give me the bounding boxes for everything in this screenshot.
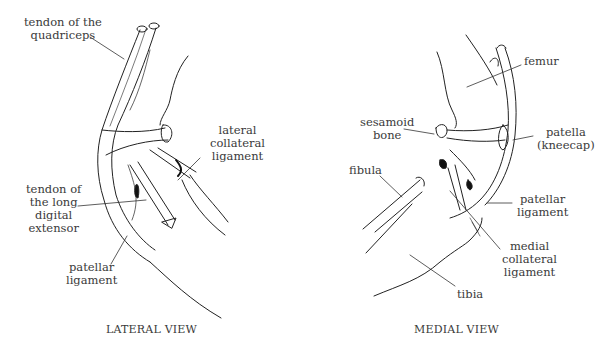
medial-view-drawing <box>363 35 516 296</box>
label-fibula: fibula <box>349 164 382 177</box>
label-lateral-collateral-ligament: lateral collateral ligament <box>210 124 265 163</box>
label-sesamoid-bone: sesamoid bone <box>360 116 414 142</box>
label-patellar-ligament-medial: patellar ligament <box>517 193 568 219</box>
knee-anatomy-drawing <box>0 0 609 356</box>
label-patellar-ligament-lateral: patellar ligament <box>66 261 117 287</box>
label-femur: femur <box>524 55 559 68</box>
caption-lateral-view: LATERAL VIEW <box>106 323 197 336</box>
leader-lines <box>78 37 533 286</box>
label-tibia: tibia <box>457 288 483 301</box>
label-long-digital-extensor: tendon of the long digital extensor <box>26 183 81 235</box>
caption-medial-view: MEDIAL VIEW <box>414 323 499 336</box>
label-quadriceps-tendon: tendon of the quadriceps <box>24 16 102 42</box>
label-medial-collateral-ligament: medial collateral ligament <box>502 240 557 279</box>
label-patella: patella (kneecap) <box>537 126 595 152</box>
